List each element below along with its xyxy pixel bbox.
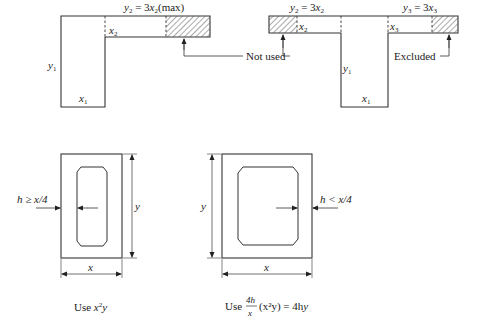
thick-wall-box-section: h ≥ x/4 y x Use x2y	[17, 154, 140, 313]
not-used-label: Not used	[246, 50, 286, 62]
thin-box-caption: Use 4h x (x²y) = 4hy	[225, 295, 308, 318]
thick-box-outer	[61, 154, 122, 258]
thick-box-caption: Use x2y	[74, 301, 107, 313]
thin-wall-label: h < x/4	[320, 193, 352, 205]
thick-box-inner-void	[77, 167, 107, 246]
l-web-height-label: y1	[47, 59, 57, 73]
t-section: y2 = 3x2 y3 = 3x3 x2 x3 y1 x1 Excluded	[269, 1, 458, 107]
l-flange-thickness-label: x2	[108, 24, 118, 38]
thin-caption-prefix: Use	[225, 300, 242, 312]
thin-caption-denominator: x	[247, 308, 252, 318]
thin-box-inner-void	[238, 167, 298, 245]
thin-caption-numerator: 4h	[246, 295, 256, 305]
l-title: y2 = 3x2(max)	[123, 1, 185, 15]
thin-height-label: y	[200, 200, 206, 212]
torsion-section-diagram: y2 = 3x2(max) x2 y1 x1 Not used y2 = 3x2	[0, 0, 481, 334]
excluded-label: Excluded	[394, 50, 436, 62]
t-right-title: y3 = 3x3	[402, 1, 438, 15]
thin-wall-box-section: h < x/4 y x Use 4h x (x²y) = 4hy	[200, 154, 352, 318]
t-web-height-label: y1	[342, 62, 352, 76]
t-left-flange-label: x2	[298, 20, 308, 34]
t-right-flange-label: x3	[389, 20, 399, 34]
t-left-hatched-region	[269, 16, 297, 33]
thick-height-label: y	[134, 200, 140, 212]
thin-width-label: x	[263, 261, 269, 273]
thick-wall-label: h ≥ x/4	[17, 193, 48, 205]
thin-caption-expression: (x²y) = 4hy	[259, 300, 308, 313]
t-excluded-leader	[440, 40, 449, 56]
t-right-hatched-region	[432, 16, 458, 33]
t-left-title: y2 = 3x2	[289, 1, 325, 15]
l-section: y2 = 3x2(max) x2 y1 x1	[47, 1, 243, 107]
thick-width-label: x	[87, 261, 93, 273]
l-web-width-label: x1	[78, 92, 88, 106]
l-hatched-region	[166, 16, 210, 37]
l-callout-leader	[184, 40, 243, 56]
t-web-width-label: x1	[361, 92, 371, 106]
